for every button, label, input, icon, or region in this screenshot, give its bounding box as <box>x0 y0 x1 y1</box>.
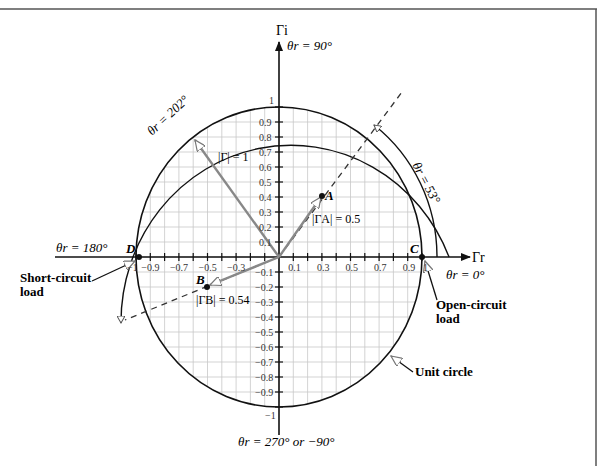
x-tick-label: −1 <box>127 262 138 273</box>
point-C <box>419 254 425 260</box>
y-tick-label: 0.7 <box>259 147 272 158</box>
y-tick-label: 0.4 <box>259 192 272 203</box>
x-tick-label: 1 <box>423 262 428 273</box>
y-tick-label: −0.9 <box>255 387 273 398</box>
y-tick-label: 0.8 <box>259 132 272 143</box>
arc-202-outer <box>121 145 449 323</box>
imag-axis-label: Γi <box>276 23 288 38</box>
x-tick-label: 0.3 <box>317 262 330 273</box>
point-D <box>136 254 142 260</box>
x-tick-labels: −1−0.9−0.7−0.5−0.30.10.30.50.70.91 <box>127 262 428 273</box>
y-tick-label: 0.2 <box>259 222 272 233</box>
arc-202-label: θr = 202° <box>144 92 192 138</box>
x-tick-label: 0.5 <box>346 262 359 273</box>
angle-0-label: θr = 0° <box>446 267 484 282</box>
angle-90-label: θr = 90° <box>287 38 332 53</box>
y-tick-label: −0.2 <box>255 282 273 293</box>
point-B-label: B <box>195 272 205 287</box>
y-tick-label: −0.1 <box>255 267 273 278</box>
x-tick-label: −0.3 <box>227 262 245 273</box>
point-D-label: D <box>125 241 136 256</box>
y-tick-label: −0.7 <box>255 357 273 368</box>
x-tick-label: 0.1 <box>288 262 301 273</box>
x-tick-label: 0.7 <box>374 262 387 273</box>
point-B <box>204 284 210 290</box>
y-tick-label: 0.5 <box>259 177 272 188</box>
short-circuit-label-1: Short-circuit <box>20 270 92 285</box>
y-tick-label: 0.1 <box>259 237 272 248</box>
point-A-magnitude: |ΓA| = 0.5 <box>312 212 360 226</box>
point-A-label: A <box>324 188 334 203</box>
unit-vector-label: |Γ| = 1 <box>218 150 249 164</box>
x-tick-label: −0.9 <box>141 262 159 273</box>
open-circuit-label-2: load <box>436 311 461 326</box>
short-circuit-label-2: load <box>20 284 45 299</box>
figure-frame <box>0 9 597 466</box>
point-C-label: C <box>410 241 419 256</box>
unit-circle-pointer <box>391 356 413 372</box>
open-circuit-label-1: Open-circuit <box>436 297 507 312</box>
x-tick-label: 0.9 <box>403 262 416 273</box>
y-tick-label: 0.9 <box>259 117 272 128</box>
x-tick-label: −0.7 <box>170 262 188 273</box>
smith-gamma-plane-diagram: Γi θr = 90° Γr θr = 0° θr = 180° θr = 27… <box>0 0 602 466</box>
y-tick-label: 1 <box>269 95 274 106</box>
y-tick-label: 0.6 <box>259 162 272 173</box>
unit-circle-label: Unit circle <box>415 364 473 379</box>
angle-180-label: θr = 180° <box>56 240 107 255</box>
point-B-magnitude: |ΓB| = 0.54 <box>196 293 250 307</box>
y-tick-label: 0.3 <box>259 207 272 218</box>
y-tick-label: −0.8 <box>255 372 273 383</box>
y-tick-labels: 10.90.80.70.60.50.40.30.20.1−0.1−0.2−0.3… <box>255 95 276 421</box>
angle-270-label: θr = 270° or −90° <box>238 434 334 449</box>
y-tick-label: −0.3 <box>255 297 273 308</box>
y-tick-label: −0.6 <box>255 342 273 353</box>
y-tick-label: −1 <box>265 410 276 421</box>
y-tick-label: −0.4 <box>255 312 273 323</box>
y-tick-label: −0.5 <box>255 327 273 338</box>
real-axis-label: Γr <box>472 250 485 265</box>
